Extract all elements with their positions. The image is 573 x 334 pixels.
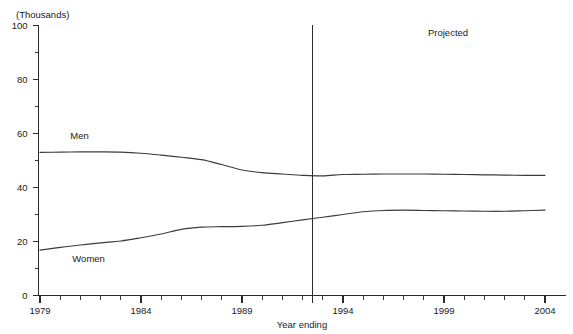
- x-tick-label: 2004: [534, 305, 555, 316]
- y-tick-label: 20: [17, 236, 28, 247]
- y-tick-label: 60: [17, 128, 28, 139]
- plot-background: [0, 0, 573, 334]
- x-tick-label: 1994: [332, 305, 353, 316]
- y-tick-label: 0: [22, 290, 27, 301]
- line-chart: (Thousands) 020406080100 197919841989199…: [0, 0, 573, 334]
- x-axis-title: Year ending: [277, 319, 327, 330]
- y-tick-label: 40: [17, 182, 28, 193]
- units-label: (Thousands): [16, 9, 69, 20]
- x-tick-label: 1989: [231, 305, 252, 316]
- series-label-men: Men: [70, 130, 88, 141]
- x-tick-label: 1999: [433, 305, 454, 316]
- projected-label: Projected: [428, 27, 468, 38]
- x-tick-label: 1984: [130, 305, 151, 316]
- x-tick-label: 1979: [29, 305, 50, 316]
- y-tick-label: 100: [12, 20, 28, 31]
- chart-annotations: Projected: [428, 27, 468, 38]
- chart-container: (Thousands) 020406080100 197919841989199…: [0, 0, 573, 334]
- series-label-women: Women: [72, 253, 105, 264]
- y-tick-label: 80: [17, 74, 28, 85]
